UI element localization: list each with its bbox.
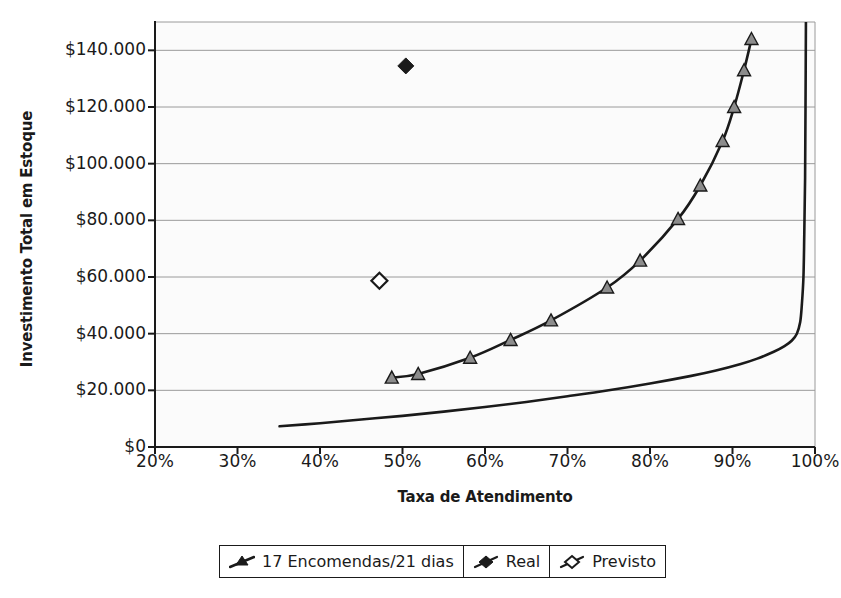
plot-area xyxy=(0,0,841,598)
legend-diamond xyxy=(565,556,579,568)
legend-marker-diamond-open-icon xyxy=(559,554,585,570)
legend-item[interactable]: Previsto xyxy=(549,546,665,577)
chart-legend: 17 Encomendas/21 diasRealPrevisto xyxy=(219,545,666,578)
legend-item[interactable]: Real xyxy=(463,546,550,577)
legend-item-label: 17 Encomendas/21 dias xyxy=(262,554,454,570)
legend-item-label: Real xyxy=(506,554,541,570)
chart-container: Investimento Total em Estoque $0$20.000$… xyxy=(0,0,841,598)
legend-marker-triangle-icon xyxy=(229,554,255,570)
legend-marker-diamond-filled-icon xyxy=(473,554,499,570)
legend-item-label: Previsto xyxy=(592,554,656,570)
legend-diamond xyxy=(479,556,493,568)
legend-item[interactable]: 17 Encomendas/21 dias xyxy=(220,546,463,577)
plot-background xyxy=(155,22,815,447)
